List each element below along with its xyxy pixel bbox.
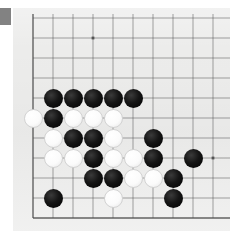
stone-black-c4-r4[interactable] — [104, 89, 123, 108]
stone-white-c1-r7[interactable] — [44, 149, 63, 168]
stone-black-c2-r6[interactable] — [64, 129, 83, 148]
stone-black-c2-r4[interactable] — [64, 89, 83, 108]
go-board-screenshot — [0, 0, 243, 252]
stone-black-c1-r4[interactable] — [44, 89, 63, 108]
stone-black-c8-r7[interactable] — [184, 149, 203, 168]
stone-black-c7-r9[interactable] — [164, 189, 183, 208]
stone-black-c7-r8[interactable] — [164, 169, 183, 188]
stone-white-c4-r6[interactable] — [104, 129, 123, 148]
stone-white-c0-r5[interactable] — [24, 109, 43, 128]
stone-white-c4-r9[interactable] — [104, 189, 123, 208]
stone-black-c3-r6[interactable] — [84, 129, 103, 148]
stone-white-c5-r8[interactable] — [124, 169, 143, 188]
stone-black-c3-r4[interactable] — [84, 89, 103, 108]
stone-white-c2-r5[interactable] — [64, 109, 83, 128]
stone-white-c1-r6[interactable] — [44, 129, 63, 148]
stone-white-c5-r7[interactable] — [124, 149, 143, 168]
stone-black-c1-r5[interactable] — [44, 109, 63, 128]
stone-white-c2-r7[interactable] — [64, 149, 83, 168]
stone-white-c4-r7[interactable] — [104, 149, 123, 168]
stone-white-c6-r8[interactable] — [144, 169, 163, 188]
stone-black-c6-r6[interactable] — [144, 129, 163, 148]
stones-layer[interactable] — [0, 0, 243, 252]
stone-black-c3-r7[interactable] — [84, 149, 103, 168]
stone-black-c1-r9[interactable] — [44, 189, 63, 208]
stone-white-c3-r5[interactable] — [84, 109, 103, 128]
stone-black-c6-r7[interactable] — [144, 149, 163, 168]
stone-black-c3-r8[interactable] — [84, 169, 103, 188]
stone-white-c4-r5[interactable] — [104, 109, 123, 128]
stone-black-c4-r8[interactable] — [104, 169, 123, 188]
stone-black-c5-r4[interactable] — [124, 89, 143, 108]
